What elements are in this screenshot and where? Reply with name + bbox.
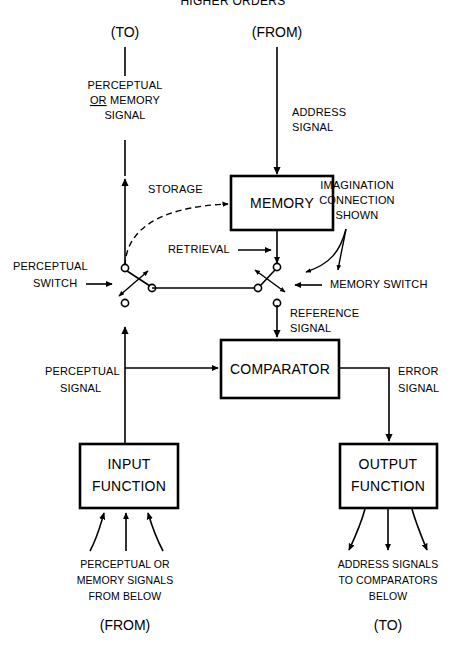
storage-label: STORAGE <box>148 183 203 195</box>
perceptual-signal-line1: PERCEPTUAL <box>45 365 120 377</box>
memory-switch-label: MEMORY SWITCH <box>330 278 428 290</box>
input-arrow-left <box>90 513 104 551</box>
perceptual-switch-line1: PERCEPTUAL <box>13 260 88 272</box>
output-function-label-line2: FUNCTION <box>351 478 425 494</box>
address-signal-line2: SIGNAL <box>292 121 333 133</box>
output-arrow-right <box>412 509 427 550</box>
output-dest-line3: BELOW <box>369 590 407 602</box>
top-from-label: (FROM) <box>252 24 303 40</box>
reference-signal-line1: REFERENCE <box>290 307 359 319</box>
input-source-line3: FROM BELOW <box>89 590 162 602</box>
imagination-line3: SHOWN <box>336 209 379 221</box>
diagram-canvas: HIGHER ORDERS (TO) (FROM) PERCEPTUAL OR … <box>0 0 467 649</box>
diagram-title: HIGHER ORDERS <box>180 0 285 8</box>
error-signal-line2: SIGNAL <box>398 382 439 394</box>
input-function-box[interactable] <box>80 444 178 508</box>
perceptual-or-memory-line3: SIGNAL <box>104 109 145 121</box>
input-arrow-right <box>148 513 163 551</box>
reference-signal-line2: SIGNAL <box>290 322 331 334</box>
top-to-label: (TO) <box>111 24 140 40</box>
or-underlined: OR <box>90 94 107 106</box>
input-function-label-line2: FUNCTION <box>92 478 166 494</box>
memory-box-label: MEMORY <box>250 195 314 211</box>
memory-word: MEMORY <box>107 94 161 106</box>
bottom-from-label: (FROM) <box>100 617 151 633</box>
input-function-label-line1: INPUT <box>108 456 151 472</box>
perceptual-switch-line2: SWITCH <box>33 277 77 289</box>
output-function-box[interactable] <box>340 444 437 508</box>
error-signal-line1: ERROR <box>398 365 438 377</box>
output-function-label-line1: OUTPUT <box>359 456 418 472</box>
output-dest-line2: TO COMPARATORS <box>338 574 437 586</box>
output-arrow-left <box>349 509 365 550</box>
comparator-box-label: COMPARATOR <box>230 361 330 377</box>
perceptual-switch-terminal-bottom[interactable] <box>121 299 128 306</box>
input-source-line1: PERCEPTUAL OR <box>80 558 170 570</box>
retrieval-label: RETRIEVAL <box>168 243 230 255</box>
perceptual-or-memory-line2: OR MEMORY <box>90 94 161 106</box>
perceptual-signal-line2: SIGNAL <box>60 382 101 394</box>
perceptual-or-memory-line1: PERCEPTUAL <box>88 79 163 91</box>
storage-connection <box>125 204 228 266</box>
imagination-pointer-left <box>306 229 346 272</box>
bottom-to-label: (TO) <box>374 617 403 633</box>
imagination-line1: IMAGINATION <box>320 179 394 191</box>
error-signal-line <box>339 368 389 441</box>
address-signal-line1: ADDRESS <box>292 106 346 118</box>
imagination-line2: CONNECTION <box>319 194 394 206</box>
output-dest-line1: ADDRESS SIGNALS <box>338 558 439 570</box>
imagination-pointer-down <box>338 229 346 270</box>
input-source-line2: MEMORY SIGNALS <box>77 574 174 586</box>
control-system-diagram: HIGHER ORDERS (TO) (FROM) PERCEPTUAL OR … <box>0 0 467 649</box>
